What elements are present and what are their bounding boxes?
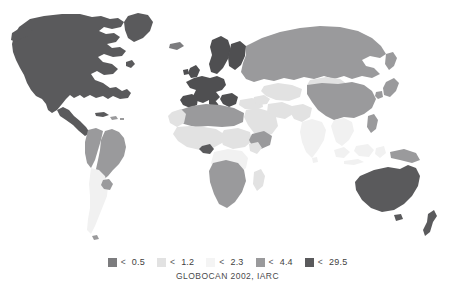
- legend-swatch-5: [305, 258, 314, 267]
- legend-value-5: 29.5: [329, 257, 347, 267]
- legend-swatch-4: [256, 258, 265, 267]
- legend-value-2: 1.2: [181, 257, 194, 267]
- legend-entry-4[interactable]: < 4.4: [256, 257, 293, 267]
- island-puerto-rico: [120, 118, 124, 120]
- legend-entry-5[interactable]: < 29.5: [305, 257, 348, 267]
- legend-operator-5: <: [318, 257, 323, 267]
- legend-swatch-3: [206, 258, 215, 267]
- legend-swatch-2: [157, 258, 166, 267]
- map-canvas: [0, 0, 455, 250]
- legend-operator-4: <: [269, 257, 274, 267]
- legend-value-3: 2.3: [230, 257, 243, 267]
- legend-entry-1[interactable]: < 0.5: [108, 257, 145, 267]
- legend-operator-1: <: [121, 257, 126, 267]
- legend-operator-3: <: [219, 257, 224, 267]
- map-legend: < 0.5 < 1.2 < 2.3 < 4.4 < 29.5: [0, 254, 455, 270]
- source-caption: GLOBOCAN 2002, IARC: [0, 271, 455, 281]
- legend-operator-2: <: [170, 257, 175, 267]
- legend-entry-3[interactable]: < 2.3: [206, 257, 243, 267]
- world-map-figure: < 0.5 < 1.2 < 2.3 < 4.4 < 29.5 GLOBOCAN …: [0, 0, 455, 294]
- legend-value-1: 0.5: [132, 257, 145, 267]
- island-sri-lanka: [312, 157, 318, 163]
- legend-swatch-1: [108, 258, 117, 267]
- legend-value-4: 4.4: [280, 257, 293, 267]
- country-ireland: [183, 69, 189, 75]
- world-map-svg: [0, 0, 455, 250]
- legend-entry-2[interactable]: < 1.2: [157, 257, 194, 267]
